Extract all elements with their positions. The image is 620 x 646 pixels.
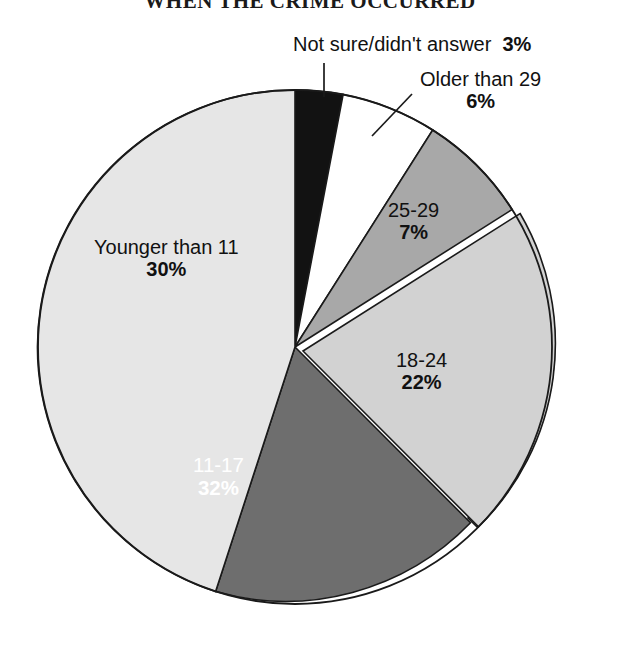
slice-label-18-24: 18-24 22% [396, 349, 447, 394]
slice-label-older-than-29: Older than 29 6% [420, 68, 541, 113]
slice-label-older-than-29-text: Older than 29 [420, 68, 541, 90]
slice-label-younger-than-11-text: Younger than 11 [94, 236, 239, 258]
slice-value-18-24: 22% [396, 371, 447, 393]
slice-value-younger-than-11: 30% [94, 258, 239, 280]
slice-label-younger-than-11: Younger than 11 30% [94, 236, 239, 281]
pie-chart-figure: WHEN THE CRIME OCCURRED Not sure/didn't … [0, 0, 620, 646]
slice-label-25-29-text: 25-29 [388, 199, 439, 221]
slice-label-not-sure: Not sure/didn't answer 3% [293, 33, 531, 55]
slice-value-25-29: 7% [388, 221, 439, 243]
slice-label-11-17-text: 11-17 [193, 454, 244, 477]
slice-label-not-sure-text: Not sure/didn't answer [293, 33, 491, 55]
slice-value-older-than-29: 6% [420, 90, 541, 112]
slice-label-25-29: 25-29 7% [388, 199, 439, 244]
slice-label-11-17: 11-17 32% [193, 454, 244, 500]
slice-value-11-17: 32% [193, 477, 244, 500]
slice-value-not-sure: 3% [502, 33, 531, 55]
slice-label-18-24-text: 18-24 [396, 349, 447, 371]
